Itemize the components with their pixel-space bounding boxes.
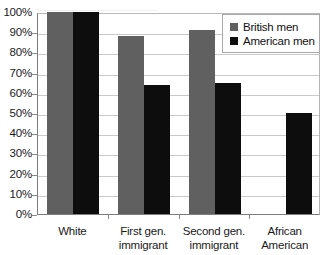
bar [118,36,144,214]
y-axis-tick-label: 60% [10,88,32,100]
bar-group [109,14,180,214]
bar [189,30,215,214]
x-axis: WhiteFirst gen.immigrantSecond gen.immig… [37,218,320,255]
bar [286,113,312,214]
x-axis-tick-mark [108,214,109,219]
legend-item-label: British men [243,21,298,33]
y-axis-tick-label: 50% [10,108,32,120]
bar [73,12,99,214]
x-axis-category-label: AfricanAmerican [249,224,320,253]
x-axis-tick-mark [179,214,180,219]
y-axis-tick-label: 20% [10,169,32,181]
bar-group [38,14,109,214]
legend-item[interactable]: American men [230,34,319,47]
scan-artifact [37,10,157,11]
x-axis-tick-mark [249,214,250,219]
y-axis-tick-label: 10% [10,189,32,201]
bar-chart: 100%90%80%70%60%50%40%30%20%10%0% WhiteF… [0,0,329,255]
bar [215,83,241,214]
y-axis-tick-label: 80% [10,48,32,60]
legend-item-label: American men [243,35,315,47]
legend-item[interactable]: British men [230,20,319,33]
y-axis-tick-mark [32,215,37,216]
y-axis-tick-label: 0% [16,209,32,221]
legend-color-swatch [230,23,238,31]
x-axis-category-label: Second gen.immigrant [179,224,250,253]
y-axis-tick-label: 70% [10,68,32,80]
bar [47,12,73,214]
x-axis-category-label: First gen.immigrant [108,224,179,253]
legend-color-swatch [230,37,238,45]
bar [144,85,170,214]
y-axis-tick-label: 30% [10,149,32,161]
y-axis-tick-label: 100% [3,7,32,19]
x-axis-category-label: White [37,224,108,238]
y-axis-tick-label: 90% [10,27,32,39]
legend: British menAmerican men [222,14,320,53]
y-axis: 100%90%80%70%60%50%40%30%20%10%0% [0,0,36,216]
y-axis-tick-label: 40% [10,128,32,140]
